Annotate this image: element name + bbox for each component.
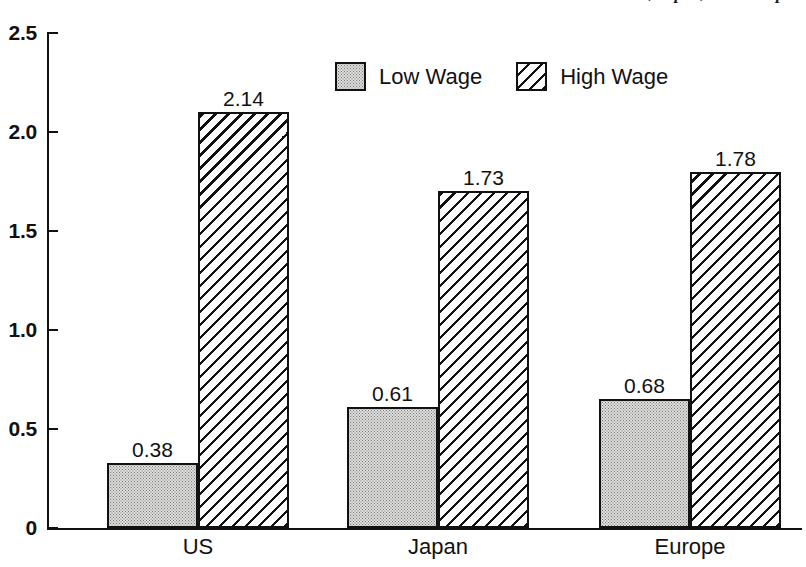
bar-europe-high-wage[interactable]: 1.78 [690,172,781,528]
x-axis-line [47,528,802,530]
bar-value-label: 0.68 [624,375,665,396]
y-axis-tick [47,527,58,529]
bar-value-label: 1.73 [463,167,504,188]
legend-swatch-low-wage-icon [335,62,366,91]
y-axis-tick-label: 1.5 [8,220,37,241]
bar-value-label: 1.78 [715,148,756,169]
chart-title: s, Japan, and Europe [642,0,792,4]
y-axis-tick [47,131,58,133]
chart-title-clip: s, Japan, and Europe [0,0,806,6]
bar-value-label: 2.14 [223,88,264,109]
bar-japan-high-wage[interactable]: 1.73 [438,191,529,528]
y-axis-tick-label: 1.0 [8,319,37,340]
legend-label-low-wage: Low Wage [379,66,482,88]
y-axis-tick-label: 2.0 [8,121,37,142]
legend-item-high-wage[interactable]: High Wage [516,62,668,91]
y-axis-tick [47,428,58,430]
y-axis-tick-label: 0.5 [8,418,37,439]
legend-label-high-wage: High Wage [560,66,668,88]
y-axis-tick-label: 2.5 [8,22,37,43]
bar-japan-low-wage[interactable]: 0.61 [347,407,438,528]
x-axis-label-japan: Japan [408,536,468,558]
y-axis-line [47,33,49,530]
bar-europe-low-wage[interactable]: 0.68 [599,399,690,528]
bar-value-label: 0.38 [132,439,173,460]
y-axis-tick [47,329,58,331]
chart-legend: Low Wage High Wage [335,62,668,91]
y-axis-tick [47,32,58,34]
legend-swatch-high-wage-icon [516,62,547,91]
y-axis-tick-label: 0 [26,517,37,538]
plot-area: 00.51.01.52.02.5 0.382.140.611.730.681.7… [47,33,802,530]
x-axis-label-us: US [183,536,214,558]
y-axis-tick [47,230,58,232]
x-axis-label-europe: Europe [655,536,726,558]
bar-us-low-wage[interactable]: 0.38 [107,463,198,528]
legend-item-low-wage[interactable]: Low Wage [335,62,482,91]
bar-value-label: 0.61 [372,383,413,404]
chart-page: s, Japan, and Europe 00.51.01.52.02.5 0.… [0,0,806,567]
bar-us-high-wage[interactable]: 2.14 [198,112,289,528]
